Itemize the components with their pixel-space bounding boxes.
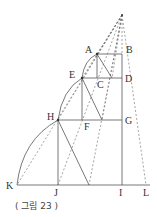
label-f: F	[84, 122, 90, 132]
label-b: B	[126, 45, 133, 55]
ray-apex-l	[122, 15, 146, 185]
arc-e-h	[58, 78, 82, 120]
label-l: L	[143, 188, 149, 198]
label-e: E	[69, 70, 75, 80]
ray-apex-k	[17, 15, 122, 185]
label-c: C	[97, 80, 104, 90]
label-d: D	[125, 74, 132, 84]
label-h: H	[47, 112, 54, 122]
label-g: G	[125, 116, 132, 126]
diag-a	[97, 54, 112, 78]
label-j: J	[54, 188, 58, 198]
ray-apex-a	[97, 15, 122, 54]
label-i: I	[119, 188, 122, 198]
label-a: A	[85, 45, 92, 55]
figure-caption: ( 그림 23 )	[15, 199, 58, 212]
label-k: K	[6, 181, 13, 191]
figure-diagram	[0, 0, 157, 217]
ray-apex-h	[58, 15, 122, 120]
ray-apex-j	[58, 15, 122, 185]
ray-apex-m	[89, 15, 122, 185]
